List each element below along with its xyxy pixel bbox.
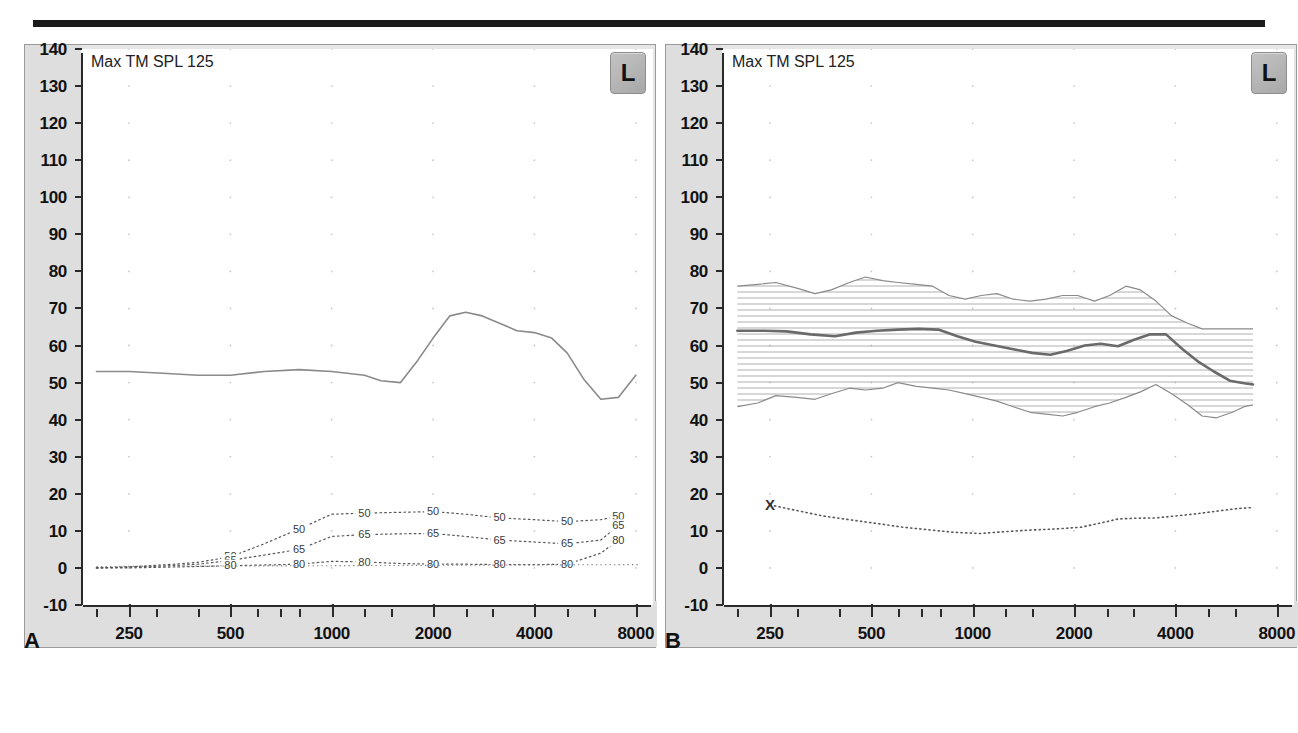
y-tick-mark	[716, 196, 723, 198]
y-tick-label: 80	[690, 263, 708, 280]
curve-level-label: 80	[358, 556, 370, 568]
chart-canvas-a: 5050505050505065656565656565808080808080…	[81, 49, 653, 605]
x-axis-line-b	[724, 605, 1292, 607]
x-tick-mark	[1133, 609, 1135, 617]
y-tick-mark	[716, 270, 723, 272]
x-tick-mark	[230, 604, 232, 617]
curve-level-label: 50	[293, 523, 305, 535]
chart-frame-b: X 1401301201101009080706050403020100-10 …	[665, 44, 1297, 648]
y-tick-mark	[716, 567, 723, 569]
x-tick-mark	[921, 609, 923, 617]
x-tick-mark	[129, 604, 131, 617]
x-tick-label: 500	[858, 625, 885, 642]
left-ear-badge-b[interactable]: L	[1251, 52, 1287, 94]
x-tick-label: 4000	[1157, 625, 1194, 642]
x-tick-mark	[1074, 604, 1076, 617]
y-tick-mark	[716, 85, 723, 87]
y-tick-mark	[75, 233, 82, 235]
y-axis-line-a	[81, 53, 83, 605]
chart-title-b: Max TM SPL 125	[732, 53, 855, 71]
y-tick-label: 30	[690, 448, 708, 465]
x-tick-mark	[797, 609, 799, 617]
x-tick-mark	[898, 609, 900, 617]
y-tick-label: 30	[49, 448, 67, 465]
y-tick-mark	[75, 493, 82, 495]
x-tick-mark	[534, 604, 536, 617]
x-tick-mark	[1107, 609, 1109, 617]
left-ear-badge-a[interactable]: L	[610, 52, 646, 94]
y-tick-mark	[716, 382, 723, 384]
curve-level-label: 65	[493, 534, 505, 546]
y-tick-label: 40	[690, 411, 708, 428]
curve-level-label: 50	[427, 505, 439, 517]
y-tick-label: 140	[681, 41, 708, 58]
x-tick-label: 1000	[954, 625, 991, 642]
curve-level-label: 80	[561, 558, 573, 570]
curve-level-label: 80	[493, 558, 505, 570]
y-tick-mark	[75, 567, 82, 569]
x-tick-mark	[466, 609, 468, 617]
y-tick-mark	[716, 345, 723, 347]
y-tick-label: 20	[690, 485, 708, 502]
x-tick-mark	[1235, 609, 1237, 617]
x-tick-mark	[1032, 609, 1034, 617]
plot-area-b: X	[722, 49, 1294, 605]
x-tick-mark	[594, 609, 596, 617]
x-tick-mark	[198, 609, 200, 617]
y-tick-label: 40	[49, 411, 67, 428]
curve-level-label: 50	[493, 511, 505, 523]
chart-title-a: Max TM SPL 125	[91, 53, 214, 71]
x-tick-mark	[973, 604, 975, 617]
y-tick-label: 50	[690, 374, 708, 391]
curve-max-tm-spl	[96, 312, 635, 399]
y-axis-line-b	[722, 53, 724, 605]
y-tick-label: 10	[690, 522, 708, 539]
curve-level-label: 65	[427, 527, 439, 539]
x-tick-mark	[770, 604, 772, 617]
x-tick-mark	[636, 604, 638, 617]
y-tick-label: 130	[681, 78, 708, 95]
x-tick-mark	[567, 609, 569, 617]
y-tick-mark	[716, 307, 723, 309]
y-tick-mark	[75, 604, 82, 606]
x-tick-mark	[364, 609, 366, 617]
y-tick-label: 50	[49, 374, 67, 391]
y-tick-mark	[716, 48, 723, 50]
x-tick-mark	[332, 604, 334, 617]
chart-frame-a: 5050505050505065656565656565808080808080…	[24, 44, 656, 648]
y-tick-label: 0	[699, 559, 708, 576]
x-tick-label: 500	[217, 625, 244, 642]
y-tick-mark	[75, 307, 82, 309]
y-tick-label: 20	[49, 485, 67, 502]
x-axis-line-a	[83, 605, 651, 607]
curve-noise-floor	[770, 505, 1253, 534]
curve-level-label: 65	[358, 528, 370, 540]
y-tick-label: -10	[43, 597, 67, 614]
y-tick-mark	[75, 419, 82, 421]
y-tick-label: 110	[681, 152, 708, 169]
x-tick-label: 4000	[516, 625, 553, 642]
y-tick-label: 90	[49, 226, 67, 243]
x-tick-mark	[1208, 609, 1210, 617]
x-tick-mark	[839, 609, 841, 617]
curve-level-label: 80	[293, 558, 305, 570]
y-tick-label: 0	[58, 559, 67, 576]
y-tick-label: 120	[681, 115, 708, 132]
y-tick-mark	[716, 604, 723, 606]
x-tick-mark	[96, 609, 98, 617]
x-tick-mark	[737, 609, 739, 617]
x-tick-mark	[1277, 604, 1279, 617]
x-tick-mark	[940, 609, 942, 617]
curve-level-label: 80	[224, 559, 236, 571]
chart-canvas-b: X	[722, 49, 1294, 605]
x-marker-icon: X	[765, 496, 775, 513]
curve-level-label: 65	[612, 519, 624, 531]
x-tick-mark	[1005, 609, 1007, 617]
curve-level-label: 65	[561, 537, 573, 549]
y-tick-mark	[75, 530, 82, 532]
y-tick-label: 70	[49, 300, 67, 317]
panel-a: 5050505050505065656565656565808080808080…	[24, 44, 656, 654]
curve-level-label: 80	[427, 558, 439, 570]
x-tick-mark	[1175, 604, 1177, 617]
y-tick-mark	[716, 530, 723, 532]
